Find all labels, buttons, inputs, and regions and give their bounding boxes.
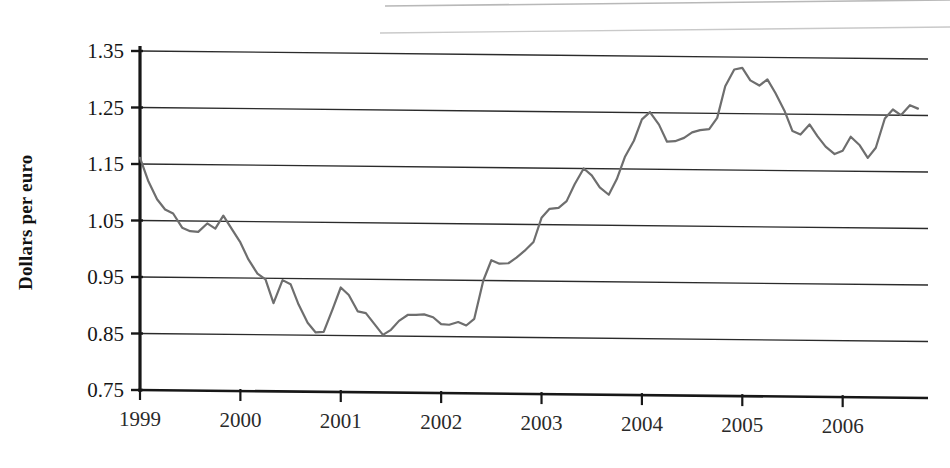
page-edge-lines	[380, 0, 950, 33]
y-tick-labels: 1.351.251.151.050.950.850.75	[87, 39, 124, 402]
gridline	[140, 108, 928, 116]
y-tick-label: 1.25	[87, 96, 124, 120]
x-tick-labels: 19992000200120022003200420052006	[119, 407, 864, 438]
y-axis-title: Dollars per euro	[15, 155, 36, 291]
x-tick-label: 2003	[521, 411, 563, 435]
x-tick-label: 2000	[219, 408, 261, 432]
gridline	[140, 51, 928, 59]
gridline	[140, 221, 928, 229]
data-series-line	[140, 68, 918, 335]
line-chart: 1.351.251.151.050.950.850.75 19992000200…	[0, 0, 950, 468]
gridline	[140, 164, 928, 172]
x-tick-label: 2002	[420, 410, 462, 434]
y-tick-label: 0.95	[87, 265, 124, 289]
gridline	[140, 334, 928, 342]
x-tick-label: 2004	[621, 412, 664, 436]
x-axis-line	[138, 390, 928, 398]
x-tick-label: 2001	[320, 409, 362, 433]
gridlines	[140, 51, 928, 398]
y-tick-label: 1.05	[87, 209, 124, 233]
y-tick-label: 1.15	[87, 152, 124, 176]
x-tick-label: 2005	[721, 413, 763, 437]
gridline	[140, 277, 928, 285]
y-tick-label: 0.85	[87, 322, 124, 346]
y-tick-label: 0.75	[87, 378, 124, 402]
x-tick-label: 1999	[119, 407, 161, 431]
y-tick-label: 1.35	[87, 39, 124, 63]
x-tick-label: 2006	[822, 414, 864, 438]
chart-page: 1.351.251.151.050.950.850.75 19992000200…	[0, 0, 950, 468]
